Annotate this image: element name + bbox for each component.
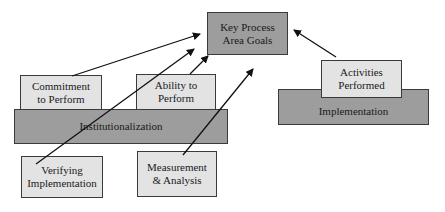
ability-to-perform-box: Ability to Perform xyxy=(136,74,216,110)
measurement-analysis-box: Measurement & Analysis xyxy=(137,151,217,197)
goal-label: Key Process Area Goals xyxy=(220,21,275,47)
activities-performed-box: Activities Performed xyxy=(321,60,402,98)
commitment-to-perform-box: Commitment to Perform xyxy=(20,75,102,110)
verifying-implementation-box: Verifying Implementation xyxy=(21,156,103,198)
arrow-activities-to-goal xyxy=(294,30,336,57)
verifying-label: Verifying Implementation xyxy=(27,164,97,190)
institutionalization-box: Institutionalization xyxy=(14,109,228,144)
cmm-kpa-diagram: Key Process Area Goals Institutionalizat… xyxy=(0,0,445,212)
implementation-label: Implementation xyxy=(319,105,389,118)
arrow-commitment-to-goal xyxy=(72,34,200,76)
arrow-ability-to-goal xyxy=(190,56,208,74)
institutionalization-label: Institutionalization xyxy=(79,120,162,133)
key-process-area-goals-box: Key Process Area Goals xyxy=(207,12,288,55)
measurement-label: Measurement & Analysis xyxy=(147,161,207,187)
activities-label: Activities Performed xyxy=(338,66,384,92)
ability-label: Ability to Perform xyxy=(155,79,197,105)
commitment-label: Commitment to Perform xyxy=(32,80,90,106)
